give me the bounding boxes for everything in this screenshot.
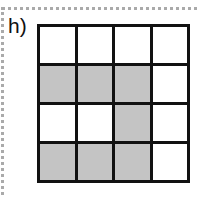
grid-cell-r2-c4: [153, 66, 188, 102]
grid-cell-r1-c1: [40, 27, 75, 63]
grid-cell-r1-c4: [153, 27, 188, 63]
grid-cell-r2-c3: [115, 66, 150, 102]
grid-cell-r3-c1: [40, 105, 75, 141]
grid-cell-r4-c3: [115, 144, 150, 180]
shading-grid: [37, 24, 190, 183]
grid-cell-r3-c2: [78, 105, 113, 141]
grid-cell-r1-c3: [115, 27, 150, 63]
grid-cell-r2-c2: [78, 66, 113, 102]
grid-cell-r3-c4: [153, 105, 188, 141]
grid-cell-r1-c2: [78, 27, 113, 63]
figure-label: h): [8, 14, 27, 38]
grid-cell-r4-c1: [40, 144, 75, 180]
grid-cell-r3-c3: [115, 105, 150, 141]
grid-cell-r4-c2: [78, 144, 113, 180]
grid-cell-r4-c4: [153, 144, 188, 180]
grid-cell-r2-c1: [40, 66, 75, 102]
